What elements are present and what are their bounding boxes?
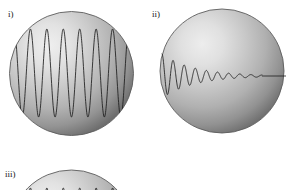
panel-ii [160, 9, 286, 133]
panel-label-i: i) [8, 10, 14, 19]
sphere-iii-body [10, 170, 134, 190]
panel-label-iii: iii) [5, 170, 16, 179]
panel-label-ii: ii) [152, 10, 160, 19]
figure-canvas: i) ii) iii) [0, 0, 286, 190]
panel-iii [10, 170, 134, 190]
panel-i [10, 12, 134, 136]
sphere-ii-body [160, 9, 284, 133]
figure-svg [0, 0, 286, 190]
